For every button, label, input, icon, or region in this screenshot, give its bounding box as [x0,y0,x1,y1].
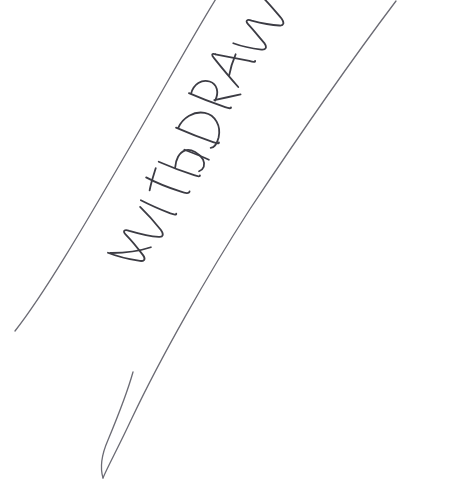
scan-canvas [0,0,476,490]
scanned-page: Scanned paper with the word WITHDRAWN ha… [0,0,476,490]
